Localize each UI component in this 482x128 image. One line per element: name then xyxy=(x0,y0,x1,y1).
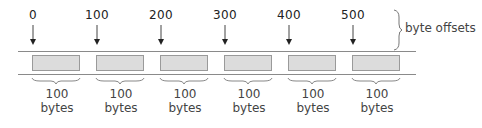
stream-bottom-rail xyxy=(18,74,416,75)
under-brace-icon xyxy=(352,78,400,84)
byte-offset-diagram: 0 100 200 300 400 500 xyxy=(0,0,482,128)
size-value: 100 xyxy=(40,87,73,101)
stream-top-rail xyxy=(18,51,416,52)
size-unit: bytes xyxy=(232,101,265,115)
under-brace-icon xyxy=(288,78,336,84)
size-unit: bytes xyxy=(296,101,329,115)
under-brace-icon xyxy=(160,78,208,84)
block-size-label-1: 100 bytes xyxy=(40,87,73,115)
size-value: 100 xyxy=(168,87,201,101)
byte-offsets-label: byte offsets xyxy=(405,21,476,35)
data-block-3 xyxy=(160,55,208,71)
data-block-4 xyxy=(224,55,272,71)
block-size-label-3: 100 bytes xyxy=(168,87,201,115)
under-brace-icon xyxy=(32,78,80,84)
size-value: 100 xyxy=(104,87,137,101)
size-value: 100 xyxy=(360,87,393,101)
under-brace-icon xyxy=(224,78,272,84)
right-brace-icon xyxy=(394,10,402,50)
under-brace-icon xyxy=(96,78,144,84)
size-braces xyxy=(32,78,400,84)
size-unit: bytes xyxy=(104,101,137,115)
block-size-label-5: 100 bytes xyxy=(296,87,329,115)
data-block-5 xyxy=(288,55,336,71)
block-size-label-6: 100 bytes xyxy=(360,87,393,115)
block-size-label-2: 100 bytes xyxy=(104,87,137,115)
size-unit: bytes xyxy=(168,101,201,115)
size-value: 100 xyxy=(296,87,329,101)
size-unit: bytes xyxy=(360,101,393,115)
data-block-6 xyxy=(352,55,400,71)
size-value: 100 xyxy=(232,87,265,101)
size-unit: bytes xyxy=(40,101,73,115)
offset-arrows xyxy=(30,25,356,45)
data-block-1 xyxy=(32,55,80,71)
block-size-label-4: 100 bytes xyxy=(232,87,265,115)
data-block-2 xyxy=(96,55,144,71)
